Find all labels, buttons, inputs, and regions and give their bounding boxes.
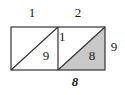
shaded-triangle-eight-label: 8 (85, 49, 99, 62)
top-right-length-label: 2 (70, 6, 86, 19)
inner-one-label: 1 (59, 30, 71, 43)
geometry-figure: 1 2 1 9 8 9 8 (0, 0, 125, 95)
bottom-eight-label: 8 (67, 75, 83, 88)
right-side-nine-label: 9 (107, 40, 121, 53)
top-left-length-label: 1 (24, 6, 40, 19)
left-square-nine-label: 9 (39, 49, 53, 62)
